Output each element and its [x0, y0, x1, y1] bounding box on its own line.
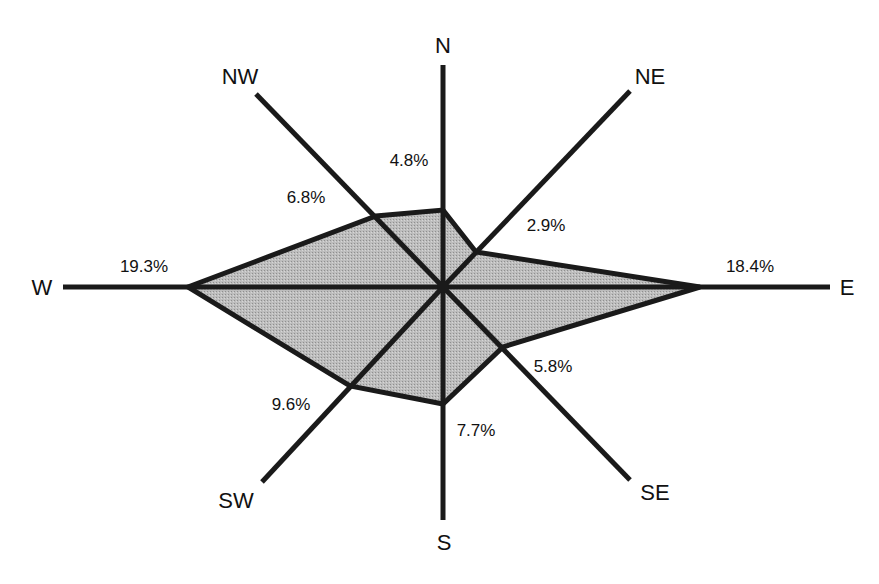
- value-label-n: 4.8%: [390, 151, 429, 170]
- label-n: N: [435, 33, 451, 58]
- label-nw: NW: [222, 64, 259, 89]
- label-sw: SW: [218, 488, 254, 513]
- label-s: S: [437, 530, 452, 555]
- center-hub: [437, 281, 449, 293]
- value-label-e: 18.4%: [726, 257, 774, 276]
- wind-rose-chart: N NE E SE S SW W NW 4.8% 2.9% 18.4% 5.8%…: [0, 0, 879, 584]
- label-e: E: [840, 275, 855, 300]
- label-ne: NE: [635, 64, 666, 89]
- spoke-ne: [443, 91, 630, 287]
- value-label-s: 7.7%: [457, 421, 496, 440]
- label-w: W: [32, 275, 53, 300]
- value-label-sw: 9.6%: [272, 395, 311, 414]
- value-label-se: 5.8%: [534, 357, 573, 376]
- direction-spokes: [63, 65, 830, 520]
- value-label-ne: 2.9%: [527, 216, 566, 235]
- label-se: SE: [640, 480, 669, 505]
- value-label-w: 19.3%: [120, 257, 168, 276]
- value-label-nw: 6.8%: [287, 188, 326, 207]
